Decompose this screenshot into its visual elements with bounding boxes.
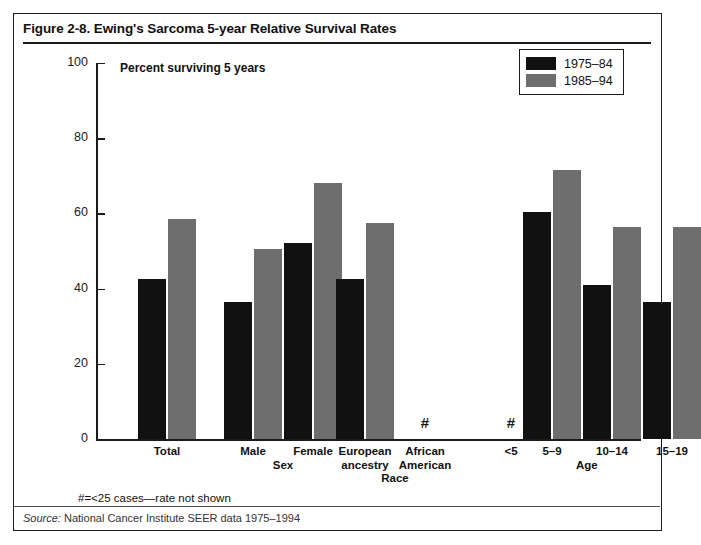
- y-axis-tick-label: 0: [81, 431, 88, 445]
- y-axis-tick-label: 40: [74, 281, 88, 295]
- source-text: Source: National Cancer Institute SEER d…: [23, 512, 300, 524]
- bar: [138, 279, 166, 439]
- x-axis-category-label: 15–19: [656, 445, 688, 459]
- legend-entry: 1985–94: [526, 72, 613, 89]
- y-axis-tick-mark: [96, 63, 105, 64]
- label-line-2: American: [399, 459, 451, 473]
- legend-label: 1975–84: [564, 57, 613, 71]
- suppressed-marker: #: [507, 414, 515, 431]
- bar: [583, 285, 611, 439]
- bar: [613, 227, 641, 439]
- bar: [673, 227, 701, 439]
- label-line-1: African: [405, 445, 445, 457]
- x-axis-group-label: Race: [381, 472, 409, 484]
- y-axis-tick-label: 20: [74, 356, 88, 370]
- y-axis-tick-label: 80: [74, 130, 88, 144]
- label-line-2: ancestry: [338, 459, 391, 473]
- figure-title: Figure 2-8. Ewing's Sarcoma 5-year Relat…: [23, 21, 651, 36]
- y-axis-tick-mark: [96, 364, 105, 365]
- bar: [168, 219, 196, 439]
- title-divider: [23, 42, 651, 44]
- x-axis-category-label: Europeanancestry: [338, 445, 391, 472]
- source-divider: [14, 506, 660, 507]
- x-axis-category-label: <5: [504, 445, 517, 459]
- x-axis-group-label: Age: [576, 459, 598, 471]
- source-value: National Cancer Institute SEER data 1975…: [61, 512, 300, 524]
- plot-note-label: Percent surviving 5 years: [120, 61, 265, 75]
- y-axis-tick-mark: [96, 138, 105, 139]
- chart-plot-area: 020406080100 Percent surviving 5 years #…: [96, 63, 641, 439]
- x-axis-line: [96, 439, 641, 441]
- x-axis-category-label: Male: [240, 445, 266, 459]
- bar: [643, 302, 671, 439]
- legend-swatch: [526, 74, 556, 87]
- x-axis-category-label: 5–9: [542, 445, 561, 459]
- bar: [284, 243, 312, 439]
- y-axis-tick-label: 60: [74, 205, 88, 219]
- bar: [523, 212, 551, 439]
- bar: [254, 249, 282, 439]
- x-axis-category-label: 10–14: [596, 445, 628, 459]
- legend-swatch: [526, 57, 556, 70]
- bar: [553, 170, 581, 439]
- suppressed-marker: #: [421, 414, 429, 431]
- bar: [224, 302, 252, 439]
- figure-frame: Figure 2-8. Ewing's Sarcoma 5-year Relat…: [13, 13, 662, 531]
- footnote-text: #=<25 cases—rate not shown: [78, 492, 231, 504]
- x-axis-category-label: Female: [293, 445, 333, 459]
- x-axis-group-label: Sex: [273, 459, 293, 471]
- y-axis-line: [96, 63, 98, 439]
- x-axis-category-label: Total: [154, 445, 181, 459]
- legend-entry: 1975–84: [526, 55, 613, 72]
- source-label: Source:: [23, 512, 61, 524]
- chart-legend: 1975–841985–94: [519, 49, 624, 95]
- label-line-1: European: [338, 445, 391, 457]
- bar: [366, 223, 394, 439]
- bar: [336, 279, 364, 439]
- y-axis-tick-label: 100: [67, 55, 88, 69]
- y-axis-tick-mark: [96, 289, 105, 290]
- y-axis-tick-mark: [96, 439, 105, 440]
- x-axis-category-label: AfricanAmerican: [399, 445, 451, 472]
- y-axis-tick-mark: [96, 213, 105, 214]
- legend-label: 1985–94: [564, 74, 613, 88]
